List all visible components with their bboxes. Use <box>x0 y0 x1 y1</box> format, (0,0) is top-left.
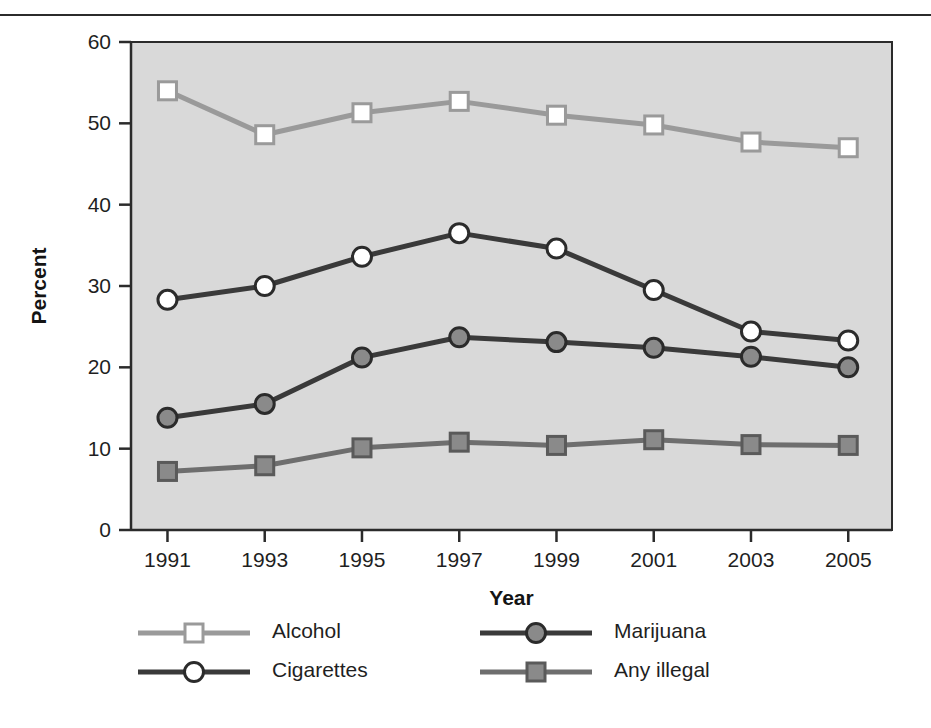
y-axis-title: Percent <box>27 247 50 324</box>
y-axis-tick-label: 60 <box>88 30 111 53</box>
x-axis-tick-label: 1997 <box>436 548 483 571</box>
y-axis-tick-label: 30 <box>88 274 111 297</box>
data-point-alcohol <box>353 104 371 122</box>
x-axis-tick-label: 2005 <box>825 548 872 571</box>
legend-point-marijuana <box>527 624 546 643</box>
x-axis-tick-label: 1993 <box>241 548 288 571</box>
legend-marker-cigarettes <box>136 658 252 686</box>
legend-label-any-illegal: Any illegal <box>614 658 710 682</box>
data-point-marijuana <box>644 338 663 357</box>
data-point-alcohol <box>547 106 565 124</box>
legend-label-marijuana: Marijuana <box>614 619 706 643</box>
data-point-alcohol <box>256 126 274 144</box>
legend-marker-alcohol <box>136 619 252 647</box>
y-axis-tick-label: 40 <box>88 193 111 216</box>
data-point-marijuana <box>255 394 274 413</box>
data-point-marijuana <box>352 348 371 367</box>
plot-background-panel <box>131 42 892 530</box>
x-axis-tick-label: 2001 <box>630 548 677 571</box>
legend-swatch-alcohol <box>136 619 252 647</box>
data-point-any-illegal <box>450 433 468 451</box>
data-point-marijuana <box>547 333 566 352</box>
data-point-cigarettes <box>450 224 469 243</box>
legend-swatch-cigarettes <box>136 658 252 686</box>
x-axis-tick-label: 1995 <box>339 548 386 571</box>
data-point-marijuana <box>839 358 858 377</box>
data-point-alcohol <box>645 116 663 134</box>
data-point-cigarettes <box>644 281 663 300</box>
data-point-alcohol <box>158 82 176 100</box>
data-point-any-illegal <box>547 436 565 454</box>
legend-swatch-any-illegal <box>478 658 594 686</box>
data-point-cigarettes <box>158 290 177 309</box>
data-point-cigarettes <box>352 247 371 266</box>
data-point-cigarettes <box>839 331 858 350</box>
data-point-marijuana <box>741 347 760 366</box>
legend-label-alcohol: Alcohol <box>272 619 341 643</box>
data-point-any-illegal <box>158 462 176 480</box>
legend-label-cigarettes: Cigarettes <box>272 658 368 682</box>
y-axis-tick-label: 20 <box>88 355 111 378</box>
legend-point-cigarettes <box>185 663 204 682</box>
data-point-alcohol <box>742 133 760 151</box>
x-axis-title: Year <box>489 586 533 609</box>
y-axis-tick-label: 10 <box>88 437 111 460</box>
data-point-any-illegal <box>353 439 371 457</box>
figure-container: 0102030405060199119931995199719992001200… <box>0 0 931 728</box>
legend-marker-any-illegal <box>478 658 594 686</box>
x-axis-tick-label: 1999 <box>533 548 580 571</box>
data-point-any-illegal <box>645 431 663 449</box>
legend-point-alcohol <box>185 624 203 642</box>
y-axis-tick-label: 50 <box>88 111 111 134</box>
data-point-cigarettes <box>255 277 274 296</box>
legend-point-any-illegal <box>527 663 545 681</box>
y-axis-tick-label: 0 <box>99 518 111 541</box>
x-axis-tick-label: 1991 <box>144 548 191 571</box>
x-axis-tick-label: 2003 <box>728 548 775 571</box>
data-point-alcohol <box>450 92 468 110</box>
legend-marker-marijuana <box>478 619 594 647</box>
legend-swatch-marijuana <box>478 619 594 647</box>
data-point-any-illegal <box>742 436 760 454</box>
data-point-any-illegal <box>256 457 274 475</box>
data-point-any-illegal <box>839 436 857 454</box>
data-point-cigarettes <box>741 322 760 341</box>
data-point-cigarettes <box>547 239 566 258</box>
data-point-marijuana <box>158 408 177 427</box>
data-point-marijuana <box>450 328 469 347</box>
data-point-alcohol <box>839 139 857 157</box>
